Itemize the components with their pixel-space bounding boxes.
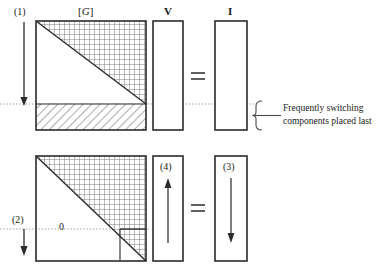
switching-note-line1: Frequently switching — [283, 102, 391, 115]
zero-block-label: 0 — [59, 222, 64, 232]
vector-i-label: I — [228, 6, 232, 17]
step3-tag: (3) — [223, 162, 235, 172]
bottom-matrix-G — [36, 156, 146, 261]
step2-arrow-icon — [20, 229, 27, 256]
bracket-close: ] — [90, 5, 94, 17]
switching-note: Frequently switching components placed l… — [283, 102, 391, 127]
step4-tag: (4) — [160, 162, 172, 172]
i-column-top — [215, 21, 247, 130]
diagram-canvas: (1) [G] V I Frequently switching compone… — [0, 0, 392, 271]
switching-band-brace — [253, 101, 282, 130]
step2-tag: (2) — [12, 215, 24, 225]
v-column-top — [153, 21, 183, 130]
equals-sign-top — [191, 73, 205, 79]
switching-note-line2: components placed last — [283, 115, 391, 128]
equals-sign-bottom — [191, 205, 205, 211]
vector-v-label: V — [164, 6, 172, 17]
matrix-label-G: [G] — [78, 6, 93, 17]
top-matrix-G — [36, 21, 146, 130]
matrix-symbol: G — [82, 5, 90, 17]
step1-tag: (1) — [14, 7, 26, 17]
step1-arrow-icon — [20, 22, 27, 106]
